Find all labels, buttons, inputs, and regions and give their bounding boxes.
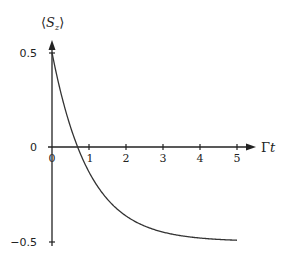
x-tick-label: 5 [234,152,241,165]
x-tick-label: 0 [49,152,56,165]
y-axis-label: ⟨Sz⟩ [41,15,64,32]
y-tick-label-bottom: −0.5 [10,236,37,249]
x-tick-label: 4 [197,152,204,165]
y-tick-label-top: 0.5 [20,47,38,60]
x-axis-arrow-icon [246,144,256,151]
x-tick-label: 2 [123,152,130,165]
x-axis-label: Γt [261,140,276,155]
y-tick-label-mid: 0 [30,141,37,154]
x-tick-label: 3 [160,152,167,165]
chart: 0 1 2 3 4 5 0.5 0 −0.5 ⟨Sz⟩ Γt [0,0,287,260]
y-axis-arrow-icon [49,40,56,50]
x-tick-label: 1 [87,152,94,165]
